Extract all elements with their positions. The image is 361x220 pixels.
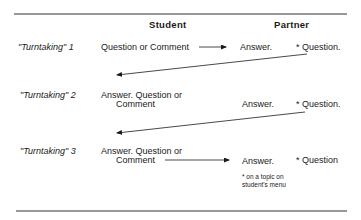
turntaking-3-label: "Turntaking" 3 bbox=[20, 146, 76, 156]
student-header: Student bbox=[149, 20, 186, 30]
diagram-lines bbox=[0, 0, 361, 220]
turntaking-3-student-line2: Comment bbox=[116, 155, 155, 165]
turntaking-3-partner-question: * Question bbox=[296, 155, 338, 165]
turntaking-1-partner-question: * Question. bbox=[296, 42, 341, 52]
turntaking-1-student: Question or Comment bbox=[101, 42, 189, 52]
turntaking-1-partner-answer: Answer. bbox=[240, 42, 272, 52]
turntaking-2-partner-question: * Question. bbox=[296, 99, 341, 109]
turntaking-2-partner-answer: Answer. bbox=[242, 99, 274, 109]
turntaking-2-student-line2: Comment bbox=[116, 99, 155, 109]
turntaking-3-partner-answer: Answer. bbox=[242, 156, 274, 166]
arrow-partner-to-student-2 bbox=[117, 112, 305, 133]
turntaking-1-label: "Turntaking" 1 bbox=[18, 42, 74, 52]
partner-header: Partner bbox=[274, 20, 309, 30]
footnote: * on a topic on student's menu bbox=[242, 173, 292, 188]
arrow-partner-to-student-1 bbox=[117, 54, 307, 75]
turntaking-2-label: "Turntaking" 2 bbox=[20, 90, 76, 100]
